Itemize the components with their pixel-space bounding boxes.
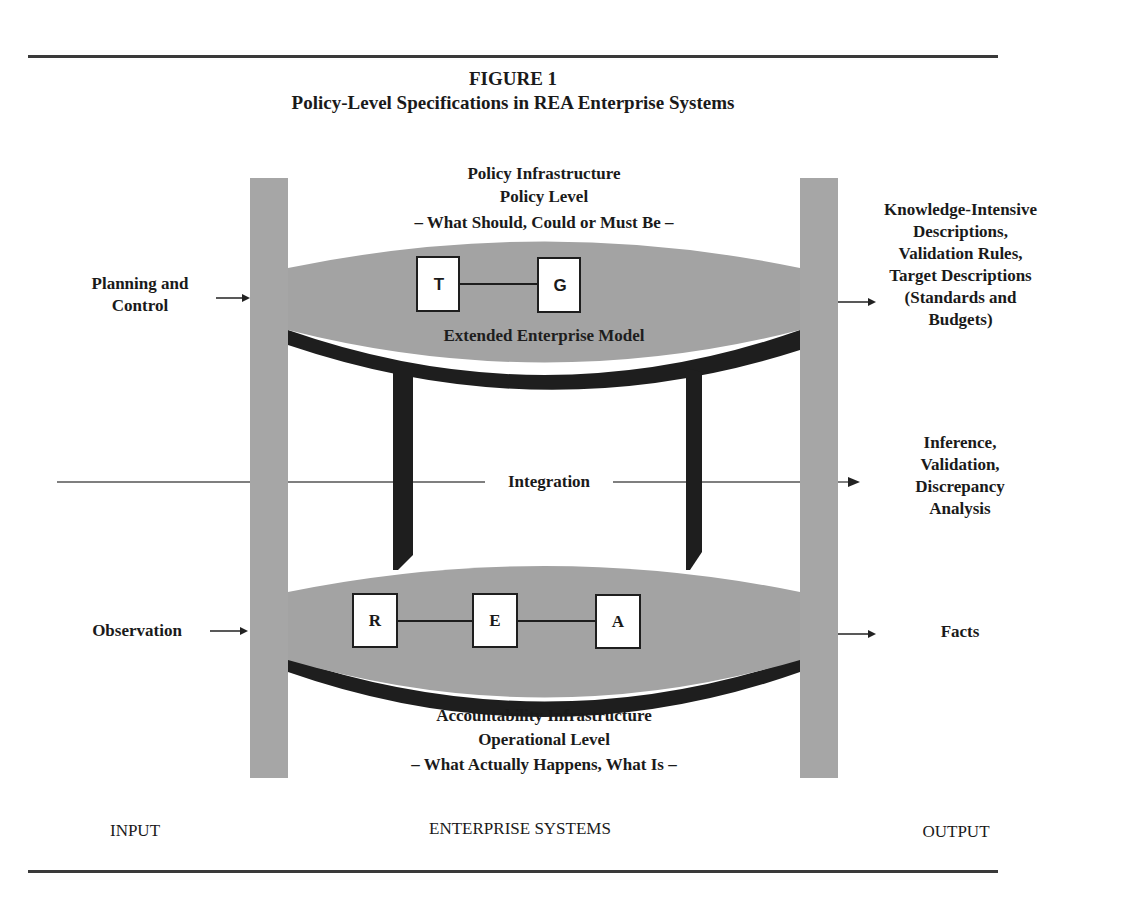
planning-line-2: Control xyxy=(70,295,210,317)
observation-label: Observation xyxy=(72,620,202,642)
left-pillar xyxy=(250,178,288,778)
output-column-label: OUTPUT xyxy=(906,821,1006,843)
observation-arrowhead xyxy=(240,627,248,635)
right-pillar xyxy=(800,178,838,778)
policy-infrastructure-label: Policy Infrastructure xyxy=(288,163,800,185)
box-a-label: A xyxy=(596,611,640,633)
right-connector xyxy=(686,368,702,570)
box-r-label: R xyxy=(353,610,397,632)
planning-and-control-label: Planning and Control xyxy=(70,273,210,317)
inference-line-1: Inference, xyxy=(880,432,1040,454)
planning-line-1: Planning and xyxy=(70,273,210,295)
policy-level-label: Policy Level xyxy=(288,186,800,208)
box-t-label: T xyxy=(417,274,461,296)
knowledge-line-2: Descriptions, xyxy=(868,221,1053,243)
knowledge-line-4: Target Descriptions xyxy=(868,265,1053,287)
integration-arrowhead xyxy=(848,477,860,487)
knowledge-line-1: Knowledge-Intensive xyxy=(868,199,1053,221)
facts-arrowhead xyxy=(868,630,876,638)
knowledge-line-5: (Standards and xyxy=(868,287,1053,309)
left-connector xyxy=(393,368,413,570)
operational-tagline: – What Actually Happens, What Is – xyxy=(288,754,800,776)
knowledge-line-6: Budgets) xyxy=(868,309,1053,331)
integration-label: Integration xyxy=(485,471,613,493)
input-column-label: INPUT xyxy=(95,820,175,842)
knowledge-line-3: Validation Rules, xyxy=(868,243,1053,265)
inference-line-3: Discrepancy xyxy=(880,476,1040,498)
enterprise-systems-column-label: ENTERPRISE SYSTEMS xyxy=(400,818,640,840)
inference-output-label: Inference, Validation, Discrepancy Analy… xyxy=(880,432,1040,520)
inference-line-2: Validation, xyxy=(880,454,1040,476)
box-e-label: E xyxy=(473,610,517,632)
planning-arrowhead xyxy=(242,294,250,302)
policy-tagline: – What Should, Could or Must Be – xyxy=(288,212,800,234)
box-g-label: G xyxy=(538,275,582,297)
operational-level-label: Operational Level xyxy=(288,729,800,751)
extended-enterprise-model-label: Extended Enterprise Model xyxy=(288,325,800,347)
accountability-infrastructure-label: Accountability Infrastructure xyxy=(288,705,800,727)
knowledge-output-label: Knowledge-Intensive Descriptions, Valida… xyxy=(868,199,1053,331)
inference-line-4: Analysis xyxy=(880,498,1040,520)
facts-label: Facts xyxy=(920,621,1000,643)
